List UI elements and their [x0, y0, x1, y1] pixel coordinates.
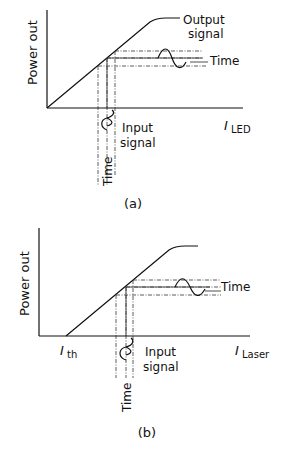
y-axis-label: Power out — [25, 20, 40, 85]
input-signal-label-1: Input — [145, 345, 176, 359]
x-axis-label-main: I — [224, 118, 228, 133]
x-axis-label-sub: Laser — [242, 349, 270, 360]
input-sine-wave — [120, 338, 133, 360]
panel-b-laser: Power out Time I th Input signal Time I … — [17, 228, 270, 440]
input-sine-wave — [102, 110, 114, 130]
input-signal-label-2: signal — [120, 136, 156, 150]
panel-a-led: Power out Output signal Time Input signa… — [25, 10, 251, 211]
input-sine-wave-lower — [107, 118, 112, 126]
caption-a: (a) — [124, 196, 142, 211]
input-sine-wave-lower — [126, 347, 131, 355]
output-time-label: Time — [209, 54, 239, 68]
output-signal-label-1: Output — [183, 13, 225, 27]
y-axis-label: Power out — [17, 251, 32, 316]
threshold-label-main: I — [60, 343, 64, 358]
caption-b: (b) — [138, 425, 156, 440]
input-signal-label-1: Input — [122, 121, 153, 135]
output-time-label: Time — [220, 280, 250, 294]
x-axis-label-main: I — [235, 343, 239, 358]
diagram-canvas: Power out Output signal Time Input signa… — [0, 0, 284, 461]
input-time-label: Time — [120, 383, 134, 413]
x-axis-label-sub: LED — [231, 124, 251, 135]
output-signal-label-2: signal — [188, 27, 224, 41]
input-time-label: Time — [101, 157, 115, 187]
threshold-label-sub: th — [67, 349, 77, 360]
led-transfer-curve — [47, 18, 180, 108]
input-signal-label-2: signal — [143, 360, 179, 374]
laser-transfer-curve — [66, 246, 198, 336]
